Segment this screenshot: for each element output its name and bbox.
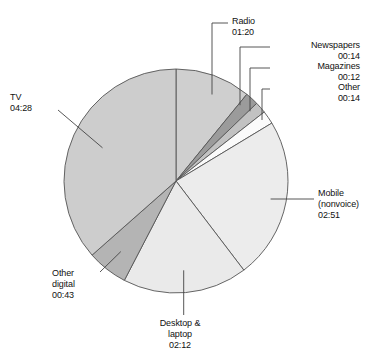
slice-label-newspapers-name: Newspapers — [272, 40, 360, 51]
slice-label-radio: Radio 01:20 — [232, 16, 255, 38]
slice-label-newspapers: Newspapers 00:14 — [272, 40, 360, 62]
slice-label-radio-value: 01:20 — [232, 27, 255, 38]
slice-label-magazines-name: Magazines — [272, 61, 360, 72]
slice-label-other: Other 00:14 — [272, 82, 360, 104]
slice-label-mobile-name: Mobile — [318, 188, 359, 199]
slice-label-other-name: Other — [272, 82, 360, 93]
slice-label-radio-name: Radio — [232, 16, 255, 27]
slice-label-mobile-value: 02:51 — [318, 210, 359, 221]
slice-label-other-value: 00:14 — [272, 93, 360, 104]
slice-label-other-digital-value: 00:43 — [52, 290, 75, 301]
slice-label-other-digital-name2: digital — [52, 279, 75, 290]
slice-label-tv: TV 04:28 — [10, 92, 32, 114]
slice-label-other-digital-name: Other — [52, 268, 75, 279]
slice-label-magazines: Magazines 00:12 — [272, 61, 360, 83]
slice-label-tv-value: 04:28 — [10, 103, 32, 114]
slice-label-desktop-name2: laptop — [143, 329, 217, 340]
slice-label-mobile-qualifier: (nonvoice) — [318, 199, 359, 210]
slice-label-desktop: Desktop & laptop 02:12 — [143, 318, 217, 351]
slice-label-mobile: Mobile (nonvoice) 02:51 — [318, 188, 359, 221]
pie-slices-group — [64, 69, 288, 293]
slice-label-tv-name: TV — [10, 92, 32, 103]
slice-label-desktop-value: 02:12 — [143, 340, 217, 351]
slice-label-other-digital: Other digital 00:43 — [52, 268, 75, 301]
slice-label-desktop-name: Desktop & — [143, 318, 217, 329]
pie-chart: TV 04:28 Radio 01:20 Newspapers 00:14 Ma… — [0, 0, 369, 359]
